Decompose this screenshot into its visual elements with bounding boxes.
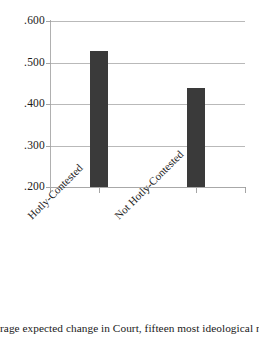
figure-caption: rage expected change in Court, fifteen m… xyxy=(0,321,259,336)
bar xyxy=(90,51,108,187)
y-axis-tick-label: .300 xyxy=(14,140,45,152)
plot-area xyxy=(50,21,245,187)
bar-chart-figure: .600.500.400.300.200 Hotly-ContestedNot … xyxy=(0,0,259,341)
x-tick-mark xyxy=(99,188,100,193)
x-tick-mark xyxy=(245,188,246,193)
y-axis-tick-label: .500 xyxy=(14,57,45,69)
x-tick-mark xyxy=(196,188,197,193)
bar xyxy=(187,88,205,187)
y-axis-tick-label: .600 xyxy=(14,15,45,27)
y-axis-tick-label: .400 xyxy=(14,98,45,110)
y-axis-tick-label: .200 xyxy=(14,181,45,193)
